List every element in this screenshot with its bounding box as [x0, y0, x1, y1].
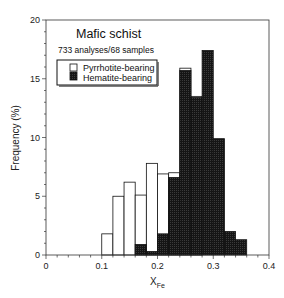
bar-hematite: [236, 240, 247, 255]
bar-hematite: [191, 98, 202, 255]
y-tick-label: 10: [30, 133, 40, 143]
bar-hematite: [202, 51, 213, 255]
legend-label-pyrrhotite: Pyrrhotite-bearing: [83, 63, 155, 73]
chart-subtitle: 733 analyses/68 samples: [58, 45, 154, 55]
x-tick-label: 0.3: [207, 261, 220, 271]
x-tick-label: 0.1: [95, 261, 108, 271]
y-tick-label: 15: [30, 74, 40, 84]
legend-swatch-pyrrhotite: [70, 64, 77, 71]
x-tick-label: 0.2: [151, 261, 164, 271]
y-tick-label: 0: [35, 250, 40, 260]
bar-pyrrhotite: [102, 234, 113, 255]
bar-pyrrhotite: [146, 163, 157, 255]
histogram-chart: 00.10.20.30.405101520 Mafic schist 733 a…: [0, 0, 284, 298]
bar-hematite: [158, 234, 169, 255]
x-axis-label: XFe: [150, 276, 165, 289]
y-tick-label: 5: [35, 191, 40, 201]
legend-label-hematite: Hematite-bearing: [83, 73, 152, 83]
legend-swatch-hematite: [70, 72, 77, 80]
bar-hematite: [135, 244, 146, 255]
y-tick-label: 20: [30, 15, 40, 25]
x-tick-label: 0.4: [263, 261, 276, 271]
bar-pyrrhotite: [113, 196, 124, 255]
bar-hematite: [180, 71, 191, 255]
bar-pyrrhotite: [124, 182, 135, 255]
x-tick-label: 0: [43, 261, 48, 271]
chart-title: Mafic schist: [76, 27, 142, 41]
bar-hematite: [146, 251, 157, 255]
legend: Pyrrhotite-bearing Hematite-bearing: [57, 60, 158, 86]
bar-hematite: [224, 232, 235, 256]
y-axis-label: Frequency (%): [10, 105, 21, 171]
bar-hematite: [169, 177, 180, 255]
bar-hematite: [213, 139, 224, 255]
